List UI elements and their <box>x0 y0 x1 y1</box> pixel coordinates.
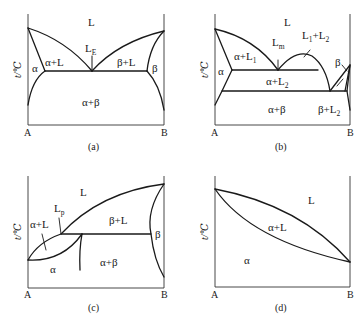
panel-a-eutectic: L LE α α+L β+L β α+β A B (a) t/℃ <box>12 14 168 153</box>
panel-a-label-alpha-beta: α+β <box>82 96 100 108</box>
panel-c-label-beta: β <box>155 228 161 240</box>
panel-b-label-L: L <box>284 16 291 28</box>
panel-c-label-alpha-beta: α+β <box>100 256 118 268</box>
panel-c-end-A: A <box>24 289 32 300</box>
panel-d-label-alpha: α <box>244 254 250 266</box>
panel-b-caption: (b) <box>275 141 287 153</box>
panel-b-label-beta-L2: β+L2 <box>318 103 341 118</box>
panel-a-solvus-beta <box>147 71 164 110</box>
panel-a-label-alpha: α <box>32 62 38 74</box>
panel-b-end-A: A <box>211 127 219 138</box>
panel-a-solvus-alpha <box>28 71 45 105</box>
panel-b-monotectic: L Lm L1+L2 α+L1 α α+L2 α+β β β+L2 A B (b… <box>199 14 354 153</box>
panel-c-lp-leader <box>59 218 61 234</box>
panel-a-caption: (a) <box>88 141 99 153</box>
panel-c-solidus-alpha <box>28 234 82 260</box>
panel-b-label-Lm: Lm <box>272 36 285 51</box>
panel-b-label-alpha: α <box>218 65 224 77</box>
panel-c-label-L: L <box>80 186 87 198</box>
panel-d-end-B: B <box>347 289 354 300</box>
panel-c-label-alpha-L: α+L <box>30 218 49 230</box>
panel-a-label-L: L <box>88 16 95 28</box>
panel-c-label-Lp: Lp <box>54 202 65 217</box>
panel-b-beta-leader <box>342 65 347 71</box>
panel-c-end-B: B <box>161 289 168 300</box>
panel-a-label-beta: β <box>152 62 158 74</box>
panel-d-label-L: L <box>308 194 315 206</box>
panel-a-label-LE: LE <box>85 42 97 57</box>
panel-a-y-axis-label: t/℃ <box>12 61 23 78</box>
panel-d-end-A: A <box>211 289 219 300</box>
panel-a-end-B: B <box>161 127 168 138</box>
panel-c-label-alpha: α <box>50 263 56 275</box>
panel-a-label-beta-L: β+L <box>117 56 136 68</box>
panel-d-isomorphous: L α+L α A B (d) t/℃ <box>199 176 354 314</box>
panel-a-label-alpha-L: α+L <box>45 56 64 68</box>
panel-c-label-beta-L: β+L <box>109 214 128 226</box>
panel-b-label-beta: β <box>335 56 341 68</box>
panel-a-axes <box>28 14 164 125</box>
panel-b-label-alpha-L1: α+L1 <box>234 50 257 65</box>
panel-d-label-alpha-L: α+L <box>268 221 287 233</box>
panel-a-end-A: A <box>24 127 32 138</box>
panel-c-caption: (c) <box>88 302 99 314</box>
panel-c-solvus-alpha <box>80 234 82 270</box>
panel-b-label-alpha-L2: α+L2 <box>266 75 289 90</box>
panel-b-y-axis-label: t/℃ <box>199 61 210 78</box>
panel-c-y-axis-label: t/℃ <box>12 223 23 240</box>
panel-b-end-B: B <box>347 127 354 138</box>
phase-diagrams-figure: L LE α α+L β+L β α+β A B (a) t/℃ L <box>0 0 364 322</box>
panel-b-solidus-alpha <box>215 29 232 70</box>
panel-c-axes <box>28 176 164 288</box>
panel-b-label-alpha-beta: α+β <box>268 103 286 115</box>
panel-d-y-axis-label: t/℃ <box>199 223 210 240</box>
panel-d-caption: (d) <box>275 302 287 314</box>
panel-c-peritectic: L Lp α+L β+L β α α+β A B (c) t/℃ <box>12 176 168 314</box>
panel-b-label-L1-L2: L1+L2 <box>302 29 329 44</box>
